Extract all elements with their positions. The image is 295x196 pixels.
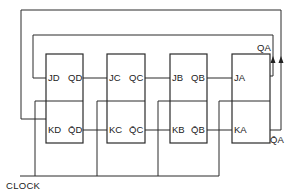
- label-jc: JC: [109, 72, 121, 83]
- label-qc: QC: [129, 72, 143, 83]
- label-kb: KB: [172, 124, 185, 135]
- label-ja: JA: [234, 72, 246, 83]
- label-jb: JB: [172, 72, 183, 83]
- label-qbbar: Q̄B: [191, 124, 205, 135]
- label-ka: KA: [234, 124, 247, 135]
- label-kd: KD: [48, 124, 61, 135]
- label-qdbar: Q̄D: [68, 124, 82, 135]
- label-qd: QD: [68, 72, 82, 83]
- label-qb: QB: [191, 72, 205, 83]
- label-qabar-output: Q̄A: [270, 134, 284, 145]
- label-jd: JD: [48, 72, 60, 83]
- arrow-up-icon: [279, 56, 284, 63]
- label-qa-output: QA: [257, 42, 271, 53]
- label-clock: CLOCK: [6, 180, 41, 191]
- arrow-up-icon: [271, 56, 276, 63]
- label-kc: KC: [109, 124, 122, 135]
- circuit-diagram: JD QD KD Q̄D JC QC KC Q̄C JB QB KB Q̄B J…: [0, 0, 295, 196]
- label-qcbar: Q̄C: [129, 124, 143, 135]
